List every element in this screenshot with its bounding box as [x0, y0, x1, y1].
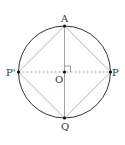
label-P-prime: P'	[6, 67, 15, 78]
point-Q	[63, 116, 66, 119]
label-Q: Q	[61, 121, 69, 132]
label-A: A	[60, 13, 69, 24]
label-P: P	[112, 67, 119, 78]
point-O	[63, 70, 66, 73]
circle-square-diagram: A P' P O Q	[0, 0, 125, 145]
label-O: O	[55, 74, 63, 85]
point-A	[63, 24, 66, 27]
point-P-prime	[17, 70, 20, 73]
